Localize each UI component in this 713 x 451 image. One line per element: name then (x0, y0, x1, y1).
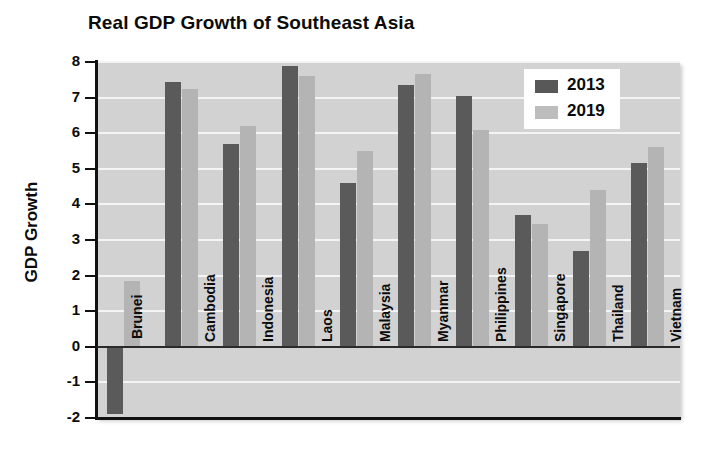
legend-swatch-2013 (535, 80, 558, 93)
x-axis-spine (95, 417, 681, 420)
legend-label-2019: 2019 (567, 101, 605, 121)
x-axis-label-cambodia: Cambodia (202, 274, 218, 342)
y-axis-tick-label: 1 (50, 301, 80, 318)
y-axis-tick-label: 7 (50, 88, 80, 105)
bar-brunei-2013 (107, 347, 123, 415)
y-axis-tick-label: -1 (50, 372, 80, 389)
bar-vietnam-2013 (631, 163, 647, 346)
y-axis-tick-label: 2 (50, 266, 80, 283)
gridline (97, 61, 680, 63)
bar-thailand-2013 (573, 251, 589, 347)
y-axis-tick-label: 6 (50, 123, 80, 140)
chart-legend: 2013 2019 (524, 69, 620, 129)
y-axis-tick (85, 203, 96, 205)
bar-singapore-2013 (515, 215, 531, 347)
bar-myanmar-2019 (415, 74, 431, 346)
bar-laos-2013 (282, 66, 298, 347)
bar-philippines-2019 (473, 130, 489, 347)
bar-chart: Real GDP Growth of Southeast Asia GDP Gr… (0, 0, 713, 451)
y-axis-tick-label: 5 (50, 159, 80, 176)
bar-malaysia-2019 (357, 151, 373, 347)
x-axis-label-myanmar: Myanmar (435, 280, 451, 341)
y-axis-tick (85, 97, 96, 99)
x-axis-label-brunei: Brunei (129, 294, 145, 338)
y-axis-tick (85, 381, 96, 383)
y-axis-tick (85, 61, 96, 63)
x-axis-label-thailand: Thailand (610, 284, 626, 342)
y-axis-tick (85, 275, 96, 277)
y-axis-tick-label: 3 (50, 230, 80, 247)
bar-indonesia-2013 (223, 144, 239, 347)
gridline (97, 381, 680, 383)
bar-vietnam-2019 (648, 147, 664, 346)
y-axis-tick (85, 132, 96, 134)
x-axis-label-vietnam: Vietnam (668, 288, 684, 342)
x-axis-label-singapore: Singapore (552, 273, 568, 341)
x-axis-label-philippines: Philippines (493, 267, 509, 342)
y-axis-tick (85, 310, 96, 312)
y-axis-tick (85, 168, 96, 170)
x-axis-label-laos: Laos (319, 309, 335, 342)
bar-indonesia-2019 (240, 126, 256, 347)
bar-myanmar-2013 (398, 85, 414, 347)
y-axis-tick (85, 239, 96, 241)
bar-laos-2019 (299, 76, 315, 347)
bar-thailand-2019 (590, 190, 606, 347)
y-axis-tick-label: -2 (50, 408, 80, 425)
y-axis-title: GDP Growth (22, 172, 42, 292)
x-axis-label-malaysia: Malaysia (377, 283, 393, 341)
legend-swatch-2019 (535, 106, 558, 119)
y-axis-tick (85, 346, 96, 348)
zero-baseline (97, 346, 680, 348)
legend-label-2013: 2013 (567, 75, 605, 95)
y-axis-tick (85, 417, 96, 419)
bar-cambodia-2019 (182, 89, 198, 347)
y-axis-tick-label: 4 (50, 194, 80, 211)
bar-malaysia-2013 (340, 183, 356, 347)
bar-philippines-2013 (456, 96, 472, 347)
y-axis-tick-label: 8 (50, 52, 80, 69)
y-axis-tick-label: 0 (50, 337, 80, 354)
x-axis-label-indonesia: Indonesia (260, 276, 276, 341)
bar-cambodia-2013 (165, 82, 181, 347)
bar-singapore-2019 (532, 224, 548, 347)
chart-title: Real GDP Growth of Southeast Asia (88, 12, 414, 34)
